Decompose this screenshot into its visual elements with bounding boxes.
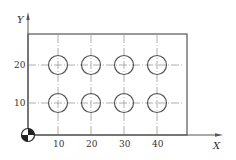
- workpiece-outline: [28, 34, 187, 135]
- x-tick-40: 40: [152, 139, 164, 149]
- x-tick-30: 30: [119, 139, 131, 149]
- workpiece-zero-icon: [22, 129, 35, 142]
- holes: [49, 56, 167, 113]
- x-tick-20: 20: [86, 139, 98, 149]
- hole-pattern-diagram: Y X 20 10 10 20 30 40: [0, 0, 236, 160]
- y-axis-label: Y: [17, 14, 25, 25]
- horizontal-centerlines: [28, 65, 183, 103]
- y-tick-10: 10: [14, 98, 26, 108]
- vertical-centerlines: [58, 35, 157, 135]
- x-axis-label: X: [212, 140, 221, 151]
- x-axis-arrow-icon: [215, 133, 223, 136]
- x-tick-10: 10: [53, 139, 65, 149]
- y-tick-20: 20: [14, 60, 26, 70]
- y-axis-arrow-icon: [26, 12, 29, 20]
